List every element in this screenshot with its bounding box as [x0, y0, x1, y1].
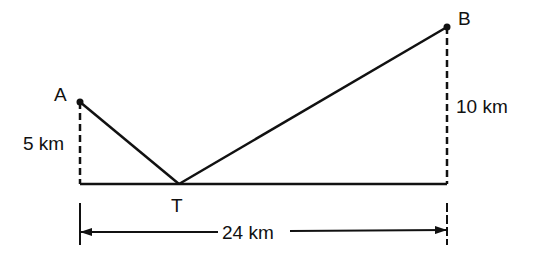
point-a [77, 99, 84, 106]
segment-t-b [179, 27, 447, 184]
label-t: T [171, 195, 183, 216]
label-b: B [458, 8, 471, 29]
diagram-canvas: A B T 5 km 10 km 24 km [0, 0, 540, 259]
height-label-b: 10 km [456, 96, 508, 117]
segment-a-t [80, 102, 179, 184]
height-label-a: 5 km [23, 133, 64, 154]
label-a: A [54, 84, 67, 105]
span-label: 24 km [222, 222, 274, 243]
point-b [444, 24, 451, 31]
dim-arrow-right [290, 230, 446, 231]
